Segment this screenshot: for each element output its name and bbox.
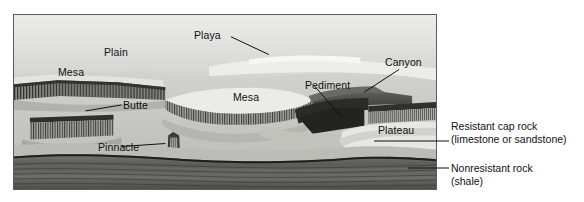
label-mesa-left: Mesa <box>58 66 84 78</box>
label-mesa-center: Mesa <box>233 91 259 103</box>
label-butte: Butte <box>123 99 148 111</box>
key-nonresistant-rock: Nonresistant rock (shale) <box>451 162 533 187</box>
key-resistant-cap-rock-line2: (limestone or sandstone) <box>451 133 567 146</box>
key-resistant-cap-rock-line1: Resistant cap rock <box>451 120 567 133</box>
key-nonresistant-rock-line1: Nonresistant rock <box>451 162 533 175</box>
label-canyon: Canyon <box>385 56 422 68</box>
landscape-illustration-panel <box>13 14 437 190</box>
key-resistant-cap-rock: Resistant cap rock (limestone or sandsto… <box>451 120 567 145</box>
key-nonresistant-rock-line2: (shale) <box>451 175 533 188</box>
figure-stage: Plain Mesa Playa Butte Pinnacle Mesa Ped… <box>0 0 584 202</box>
label-playa: Playa <box>194 29 221 41</box>
label-plateau: Plateau <box>378 124 414 136</box>
label-pinnacle: Pinnacle <box>98 141 139 153</box>
label-pediment: Pediment <box>305 79 350 91</box>
label-plain: Plain <box>104 46 128 58</box>
landscape-artwork <box>14 15 436 189</box>
